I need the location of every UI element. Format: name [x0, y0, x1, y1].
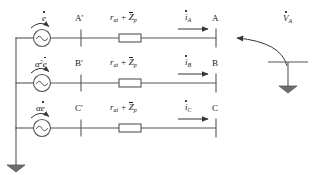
impedance-label-c: rat + Zp	[110, 103, 137, 113]
terminal-label-a: A	[212, 14, 219, 23]
source-label-a: e	[42, 14, 46, 23]
impedance-box-c	[119, 124, 141, 132]
terminal-label-c-prime: C′	[75, 104, 83, 113]
sine-wave-icon-b	[37, 81, 48, 86]
curved-arrow-icon-b	[31, 68, 49, 73]
impedance-label-a: rat + Zp	[110, 13, 137, 23]
impedance-box-a	[119, 34, 141, 42]
terminal-label-a-prime: A′	[75, 14, 83, 23]
impedance-box-b	[119, 79, 141, 87]
impedance-label-b: rat + Zp	[110, 58, 137, 68]
current-label-a: iA	[185, 13, 191, 23]
curved-arrow-icon-c	[31, 113, 49, 118]
circuit-diagram: e A′ rat + Zp iA A α2e B′ rat + Zp iB B …	[0, 0, 321, 184]
curved-arrow-icon-a	[31, 23, 49, 28]
voltage-label-va: VA	[283, 14, 292, 24]
sine-wave-icon-a	[37, 36, 48, 41]
sine-wave-icon-c	[37, 126, 48, 131]
circuit-schematic-svg	[0, 0, 321, 184]
terminal-label-c: C	[212, 104, 218, 113]
source-label-c: αe	[36, 104, 45, 113]
terminal-label-b-prime: B′	[75, 59, 83, 68]
terminal-label-b: B	[212, 59, 218, 68]
current-label-c: iC	[185, 103, 192, 113]
current-label-b: iB	[185, 58, 191, 68]
source-symbol-a: e	[42, 14, 46, 23]
source-label-b: α2e	[35, 59, 47, 69]
ground-icon-right	[279, 86, 297, 93]
ground-icon-neutral	[7, 165, 25, 172]
